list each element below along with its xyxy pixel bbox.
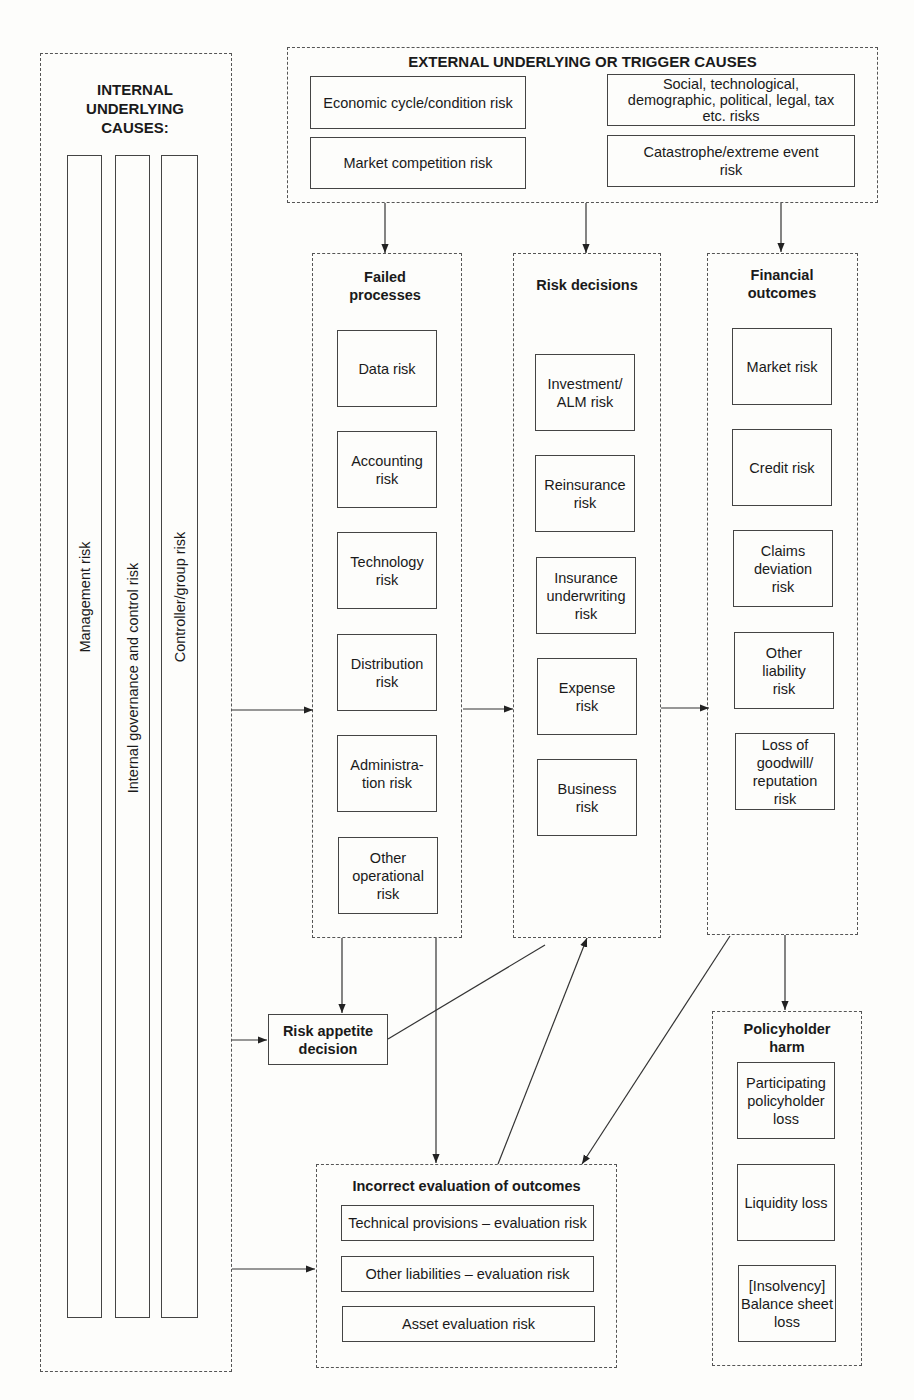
claims-deviation-risk: Claims deviation risk — [733, 530, 833, 607]
controller-group-label: Controller/group risk — [172, 532, 188, 663]
financial-outcomes-title: Financial outcomes — [730, 266, 834, 302]
business-risk: Business risk — [537, 759, 637, 836]
management-risk-label: Management risk — [77, 542, 93, 653]
investment-alm-risk: Investment/ ALM risk — [535, 354, 635, 431]
risk-appetite-decision: Risk appetite decision — [268, 1014, 388, 1065]
liquidity-loss: Liquidity loss — [737, 1164, 835, 1241]
technology-risk: Technology risk — [337, 532, 437, 609]
data-risk: Data risk — [337, 330, 437, 407]
administration-risk: Administra-tion risk — [337, 735, 437, 812]
economic-cycle-risk: Economic cycle/condition risk — [310, 76, 526, 129]
market-risk: Market risk — [732, 328, 832, 405]
other-operational-risk: Other operational risk — [338, 837, 438, 914]
arrow-appetite-to-decisions — [388, 945, 545, 1039]
credit-risk: Credit risk — [732, 429, 832, 506]
incorrect-evaluation-title: Incorrect evaluation of outcomes — [316, 1177, 617, 1195]
social-tech-risk: Social, technological, demographic, poli… — [607, 74, 855, 126]
accounting-risk: Accounting risk — [337, 431, 437, 508]
reinsurance-risk: Reinsurance risk — [535, 455, 635, 532]
external-causes-title: EXTERNAL UNDERLYING OR TRIGGER CAUSES — [287, 53, 878, 71]
other-liabilities-risk: Other liabilities – evaluation risk — [341, 1256, 594, 1292]
arrow-financial-to-evaluation — [582, 936, 730, 1164]
risk-decisions-title: Risk decisions — [513, 276, 661, 294]
controller-group-bar: Controller/group risk — [161, 155, 198, 1318]
participating-policyholder-loss: Participating policyholder loss — [737, 1062, 835, 1139]
balance-sheet-loss: [Insolvency] Balance sheet loss — [738, 1265, 836, 1342]
distribution-risk: Distribution risk — [337, 634, 437, 711]
catastrophe-risk: Catastrophe/extreme event risk — [607, 135, 855, 187]
failed-processes-title: Failed processes — [335, 268, 435, 304]
market-competition-risk: Market competition risk — [310, 137, 526, 189]
expense-risk: Expense risk — [537, 658, 637, 735]
internal-causes-title: INTERNAL UNDERLYING CAUSES: — [70, 80, 200, 137]
internal-governance-label: Internal governance and control risk — [125, 563, 141, 794]
internal-governance-bar: Internal governance and control risk — [115, 155, 150, 1318]
management-risk-bar: Management risk — [67, 155, 102, 1318]
insurance-underwriting-risk: Insurance underwriting risk — [536, 557, 636, 634]
technical-provisions-risk: Technical provisions – evaluation risk — [341, 1205, 594, 1241]
other-liability-risk: Other liability risk — [734, 632, 834, 709]
asset-evaluation-risk: Asset evaluation risk — [342, 1306, 595, 1342]
arrow-evaluation-to-decisions — [498, 938, 587, 1164]
goodwill-reputation-risk: Loss of goodwill/ reputation risk — [735, 733, 835, 810]
policyholder-harm-title: Policyholder harm — [730, 1020, 844, 1056]
